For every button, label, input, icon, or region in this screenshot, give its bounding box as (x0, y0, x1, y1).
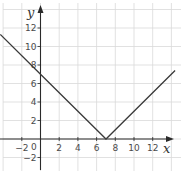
x-axis-label: x (163, 141, 171, 156)
y-tick-label: −2 (23, 153, 36, 163)
x-tick-label: −2 (15, 143, 28, 153)
x-tick-label: 8 (112, 143, 118, 153)
y-tick-label: 10 (25, 42, 37, 52)
origin-label: 0 (31, 142, 37, 152)
x-tick-label: 6 (94, 143, 100, 153)
y-axis-label: y (26, 5, 35, 20)
graph-canvas: −224681012−224681012 y x 0 (0, 0, 181, 171)
y-tick-label: 2 (31, 116, 37, 126)
x-tick-label: 4 (75, 143, 81, 153)
y-axis-arrow-icon (38, 5, 44, 13)
x-tick-label: 10 (128, 143, 140, 153)
x-tick-label: 12 (147, 143, 158, 153)
y-tick-label: 12 (25, 23, 36, 33)
y-tick-label: 4 (31, 97, 37, 107)
x-tick-label: 2 (56, 143, 62, 153)
y-tick-label: 6 (31, 79, 37, 89)
tick-marks (22, 28, 153, 158)
